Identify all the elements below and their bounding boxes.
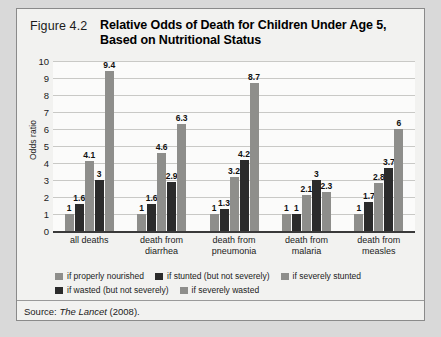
legend-label: if properly nourished [67,271,144,281]
bar[interactable] [85,161,94,231]
bar-value-label: 6 [396,118,401,128]
bar-slot: 3.2 [230,61,239,231]
bar[interactable] [75,204,84,231]
bar-slot: 1 [292,61,301,231]
bar-value-label: 1 [212,203,217,213]
bar-group-bars: 11.72.83.76 [354,61,403,231]
figure-header: Figure 4.2 Relative Odds of Death for Ch… [17,18,424,56]
bar[interactable] [177,124,186,231]
x-tick-label: death fromdiarrhea [125,235,197,256]
y-tick-label: 5 [31,141,49,152]
bar[interactable] [240,160,249,231]
bar-slot: 2.1 [302,61,311,231]
bar[interactable] [210,214,219,231]
figure-number: Figure 4.2 [30,19,87,33]
bar-slot: 3.7 [384,61,393,231]
chart-legend: if properly nourishedif stunted (but not… [55,271,405,299]
bar[interactable] [105,71,114,231]
bar[interactable] [292,214,301,231]
legend-item[interactable]: if properly nourished [55,271,144,281]
legend-label: if stunted (but not severely) [167,271,270,281]
bar-value-label: 1 [356,203,361,213]
legend-label: if severely stunted [293,271,362,281]
bar-value-label: 1.6 [73,193,85,203]
bar[interactable] [364,202,373,231]
plot-area: 11.64.139.411.64.62.96.311.33.24.28.7112… [53,61,415,233]
bar-slot: 1 [65,61,74,231]
x-tick-label: death frommalaria [270,235,342,256]
y-tick-label: 3 [31,175,49,186]
bar-slot: 1.3 [220,61,229,231]
bar[interactable] [384,168,393,231]
bar-slot: 6 [394,61,403,231]
bar-slot: 2.3 [322,61,331,231]
y-tick-label: 7 [31,107,49,118]
figure-card: Figure 4.2 Relative Odds of Death for Ch… [16,8,425,321]
bar[interactable] [282,214,291,231]
bar-value-label: 8.7 [248,72,260,82]
bar-group: 11.72.83.76 [343,61,415,231]
bar[interactable] [354,214,363,231]
legend-item[interactable]: if stunted (but not severely) [155,271,270,281]
bar[interactable] [322,192,331,231]
y-axis-ticks: 109876543210 [31,61,49,231]
bar[interactable] [220,209,229,231]
bar-group-bars: 11.64.62.96.3 [137,61,186,231]
bar-value-label: 2.9 [166,171,178,181]
y-tick-label: 6 [31,124,49,135]
x-tick-label: death frommeasles [343,235,415,256]
bar-group-bars: 11.64.139.4 [65,61,114,231]
source-year: (2008). [110,306,140,317]
bar-value-label: 4.2 [238,149,250,159]
source-prefix: Source: [24,306,57,317]
x-axis-labels: all deathsdeath fromdiarrheadeath frompn… [53,235,415,256]
bar-slot: 3 [312,61,321,231]
bar-slot: 1 [137,61,146,231]
legend-item[interactable]: if severely stunted [281,271,362,281]
bar-slot: 8.7 [250,61,259,231]
bar[interactable] [394,129,403,231]
bar-value-label: 1.6 [146,193,158,203]
legend-label: if severely wasted [192,285,260,295]
bar-group-bars: 11.33.24.28.7 [210,61,259,231]
bar-slot: 6.3 [177,61,186,231]
bar-value-label: 3 [314,169,319,179]
bar[interactable] [147,204,156,231]
bar[interactable] [250,83,259,231]
bar[interactable] [137,214,146,231]
bar-slot: 2.8 [374,61,383,231]
bar-group-bars: 112.132.3 [282,61,331,231]
bar[interactable] [157,153,166,231]
bar[interactable] [65,214,74,231]
y-tick-label: 2 [31,192,49,203]
bar-slot: 3 [95,61,104,231]
bar-slot: 1 [282,61,291,231]
y-tick-label: 10 [31,56,49,67]
legend-item[interactable]: if wasted (but not severely) [55,285,169,295]
bar-group: 11.64.62.96.3 [125,61,197,231]
bar[interactable] [302,195,311,231]
bar-group: 11.33.24.28.7 [198,61,270,231]
bar-value-label: 1.3 [218,198,230,208]
bar-value-label: 2.8 [373,172,385,182]
bar-slot: 4.6 [157,61,166,231]
bar-slot: 4.1 [85,61,94,231]
x-tick-label: death frompneumonia [198,235,270,256]
legend-item[interactable]: if severely wasted [180,285,260,295]
bar[interactable] [230,177,239,231]
bar[interactable] [374,183,383,231]
bar-slot: 9.4 [105,61,114,231]
y-tick-label: 1 [31,209,49,220]
y-tick-label: 0 [31,226,49,237]
bar-slot: 4.2 [240,61,249,231]
bar[interactable] [95,180,104,231]
page-title: Relative Odds of Death for Children Unde… [100,18,410,47]
legend-row: if wasted (but not severely)if severely … [55,285,405,296]
y-tick-label: 8 [31,90,49,101]
source-divider [17,300,424,301]
bar-slot: 1.7 [364,61,373,231]
bar-value-label: 1 [139,203,144,213]
bar-value-label: 1 [67,203,72,213]
legend-row: if properly nourishedif stunted (but not… [55,271,405,282]
bar[interactable] [167,182,176,231]
